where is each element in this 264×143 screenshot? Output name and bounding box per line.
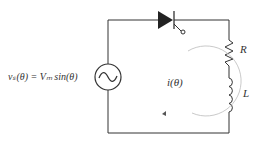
resistor-icon (225, 40, 233, 66)
current-label: i(θ) (167, 76, 183, 88)
rl-thyristor-circuit: vₛ(θ) = Vₘ sin(θ) i(θ) R L (0, 0, 264, 143)
wire (108, 20, 158, 64)
wire (108, 90, 229, 133)
inductor-label: L (243, 87, 249, 99)
thyristor-gate-lead (174, 24, 181, 31)
current-direction-arrow-icon (188, 46, 241, 116)
thyristor-icon (158, 11, 173, 29)
source-voltage-label: vₛ(θ) = Vₘ sin(θ) (8, 71, 78, 82)
resistor-label: R (240, 43, 247, 55)
gate-terminal-icon (181, 30, 185, 34)
sine-wave-icon (99, 73, 117, 82)
